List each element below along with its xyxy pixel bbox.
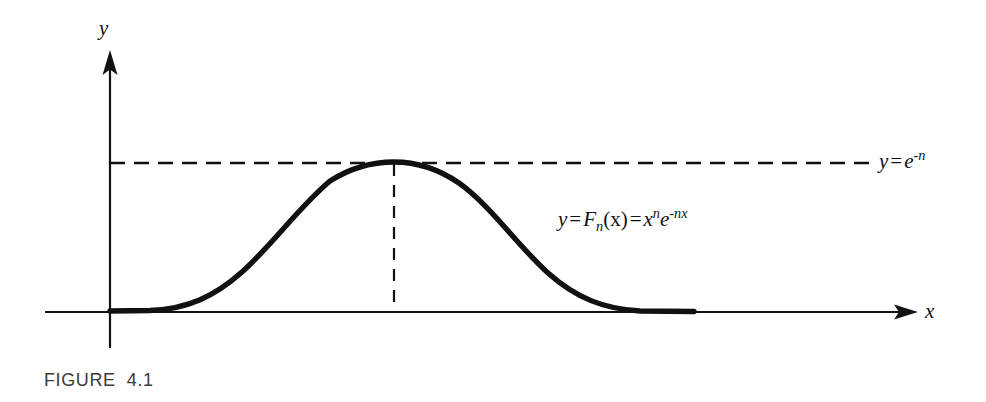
function-equals-first: = — [567, 207, 583, 231]
figure-caption: FIGURE 4.1 — [44, 371, 154, 389]
asymptote-base: e — [904, 149, 913, 173]
asymptote-equation-label: y=e-n — [879, 151, 925, 172]
function-equation-label: y=Fn(x)=xne-nx — [558, 209, 688, 230]
asymptote-exponent: -n — [914, 147, 926, 163]
function-argument: (x) — [603, 207, 628, 231]
plot-canvas — [0, 0, 986, 402]
y-axis-group — [103, 50, 118, 348]
function-term2-base: e — [660, 207, 669, 231]
asymptote-lhs: y — [879, 149, 888, 173]
y-axis-label: y — [99, 18, 108, 39]
function-equals-second: = — [628, 207, 644, 231]
x-axis-label: x — [925, 301, 934, 322]
function-term1-base: x — [643, 207, 652, 231]
asymptote-equals: = — [888, 149, 904, 173]
function-term2-exponent: -nx — [669, 205, 687, 221]
figure-container: y x y=e-n y=Fn(x)=xne-nx FIGURE 4.1 — [0, 0, 986, 402]
function-curve — [110, 162, 694, 312]
function-term1-exponent: n — [653, 205, 660, 221]
function-name: F — [583, 207, 596, 231]
function-lhs: y — [558, 207, 567, 231]
